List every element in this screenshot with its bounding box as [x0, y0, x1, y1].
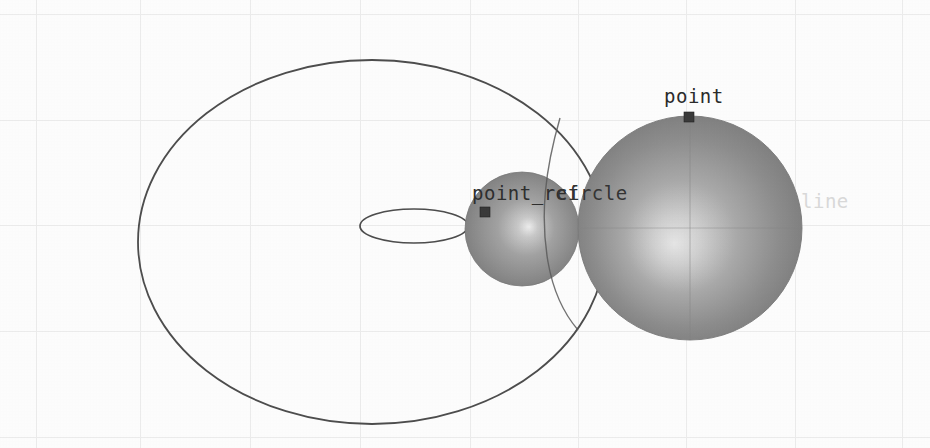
sphere-large[interactable] — [578, 116, 802, 340]
scene-canvas — [0, 0, 930, 448]
point-marker[interactable] — [684, 112, 694, 122]
3d-geometry-viewport[interactable]: point point_ref circle line — [0, 0, 930, 448]
circle-outline-small[interactable] — [360, 209, 468, 243]
point-ref-marker[interactable] — [480, 207, 490, 217]
sphere-small[interactable] — [465, 172, 579, 286]
